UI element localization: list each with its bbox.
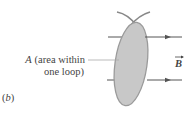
faraday-loop-diagram: A(area within one loop) B (b) bbox=[0, 0, 194, 115]
area-label-line2: one loop) bbox=[44, 66, 84, 78]
area-symbol: A bbox=[24, 54, 32, 65]
area-label-line1: A(area within bbox=[24, 54, 86, 66]
area-label-text: (area within bbox=[35, 54, 86, 66]
field-symbol-b: B bbox=[174, 58, 182, 69]
panel-letter: b bbox=[6, 92, 11, 103]
loop-area bbox=[109, 20, 152, 108]
panel-label: (b) bbox=[2, 92, 15, 104]
